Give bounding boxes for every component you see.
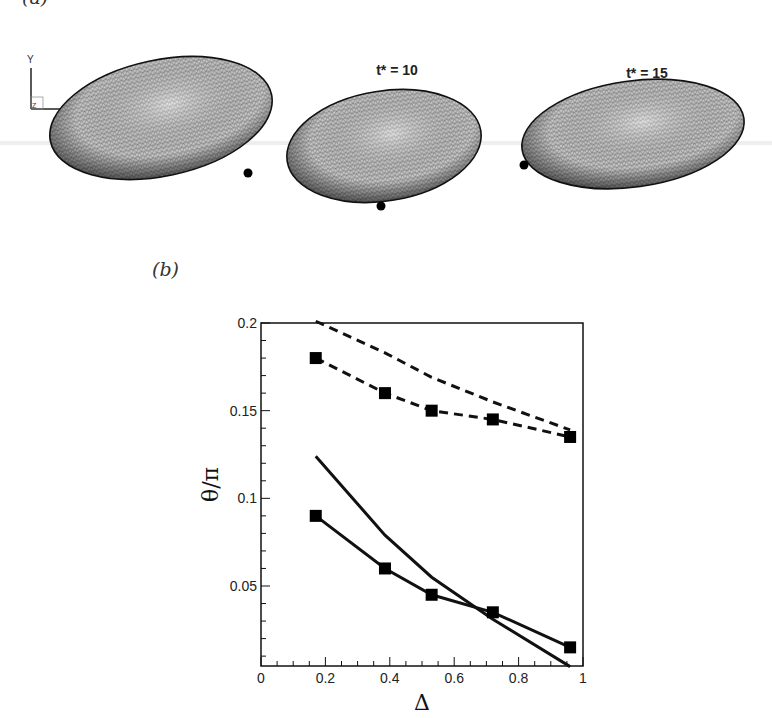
x-tick-label: 0 [257,670,265,686]
x-tick-label: 0.6 [444,670,464,686]
square-marker [379,562,391,574]
series-2 [316,456,570,666]
x-tick-label: 1 [579,670,587,686]
series-1 [310,352,576,443]
x-axis-title: Δ [414,690,430,715]
x-tick-label: 0.2 [316,670,336,686]
square-marker [564,641,576,653]
square-marker [487,413,499,425]
y-axis: 0.050.10.150.2θ/π [198,315,270,656]
y-axis-title: θ/π [198,467,223,502]
square-marker [310,510,322,522]
square-marker [426,405,438,417]
square-marker [310,352,322,364]
series-line [316,358,570,437]
theta-vs-delta-chart: 00.20.40.60.81Δ0.050.10.150.2θ/π [0,0,772,718]
y-tick-label: 0.1 [238,490,258,506]
y-tick-label: 0.15 [230,403,257,419]
square-marker [379,387,391,399]
series-line [316,456,570,666]
y-tick-label: 0.2 [238,315,258,331]
x-tick-label: 0.4 [380,670,400,686]
x-tick-label: 0.8 [509,670,529,686]
square-marker [426,589,438,601]
square-marker [564,431,576,443]
y-tick-label: 0.05 [230,578,257,594]
series-3 [310,510,576,653]
plot-frame [261,323,583,666]
series-line [316,516,570,648]
square-marker [487,606,499,618]
